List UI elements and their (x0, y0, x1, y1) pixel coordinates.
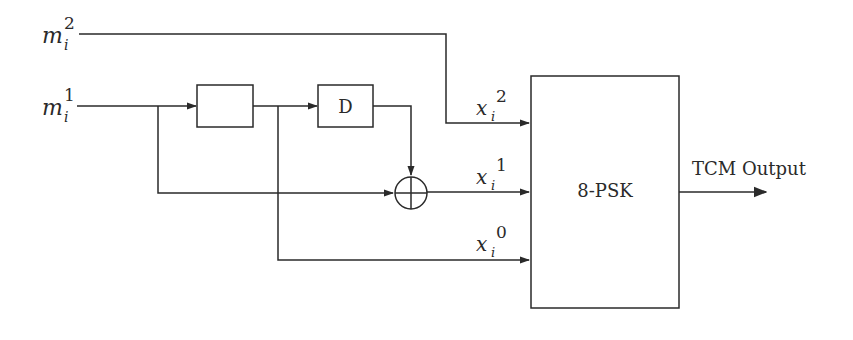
svg-text:i: i (491, 109, 495, 124)
input-label-m2: m 2 i (42, 13, 75, 53)
coded-bit-label-x1: x i 1 (476, 155, 507, 193)
svg-text:m: m (42, 95, 63, 120)
svg-text:x: x (476, 232, 487, 256)
wire-delay2-to-xor (373, 106, 411, 175)
delay-block-d: D (318, 85, 373, 127)
svg-text:0: 0 (496, 222, 507, 242)
svg-text:8-PSK: 8-PSK (577, 180, 633, 201)
xor-adder-icon (395, 177, 427, 209)
tcm-output-label: TCM Output (692, 158, 807, 179)
svg-text:x: x (476, 96, 487, 120)
tcm-encoder-diagram: m 2 i m 1 i D x i 2 x i 1 (0, 0, 853, 340)
svg-text:1: 1 (64, 85, 75, 105)
coded-bit-label-x2: x i 2 (476, 86, 507, 124)
input-label-m1: m 1 i (42, 85, 75, 125)
svg-text:2: 2 (496, 86, 507, 106)
svg-text:m: m (42, 23, 63, 48)
svg-text:i: i (491, 178, 495, 193)
svg-text:i: i (491, 245, 495, 260)
svg-text:1: 1 (496, 155, 507, 175)
svg-text:2: 2 (64, 13, 75, 33)
svg-text:D: D (338, 96, 352, 117)
wire-m2-to-x2 (79, 34, 529, 123)
svg-text:i: i (64, 109, 68, 125)
svg-text:i: i (64, 37, 68, 53)
8psk-mapper-block: 8-PSK (531, 76, 679, 308)
coded-bit-label-x0: x i 0 (476, 222, 507, 260)
delay-block-1 (197, 85, 253, 127)
svg-text:x: x (476, 165, 487, 189)
